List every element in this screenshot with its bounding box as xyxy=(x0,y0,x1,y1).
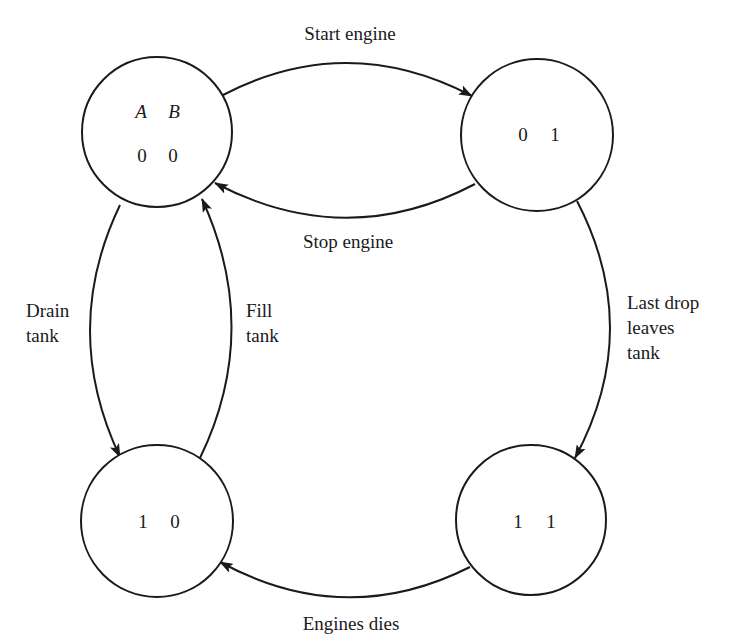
state-circle xyxy=(456,445,606,595)
state-10: 1 0 xyxy=(81,445,233,597)
state-b-value: 1 xyxy=(550,124,560,145)
label-drain-tank-line2: tank xyxy=(26,325,59,346)
edge-engines-dies xyxy=(220,562,470,597)
edge-fill-tank xyxy=(200,199,232,458)
edge-last-drop xyxy=(575,201,610,458)
edge-start-engine xyxy=(221,63,472,96)
state-01: 0 1 xyxy=(461,59,613,211)
label-fill-tank-line1: Fill xyxy=(246,300,272,321)
label-stop-engine: Stop engine xyxy=(303,231,393,252)
label-last-drop-line1: Last drop xyxy=(627,292,699,313)
state-circle xyxy=(461,59,613,211)
state-00: A B 0 0 xyxy=(82,57,232,207)
state-b-value: 1 xyxy=(546,511,556,532)
label-engines-dies: Engines dies xyxy=(303,613,400,634)
var-b-label: B xyxy=(168,101,180,122)
state-b-value: 0 xyxy=(168,145,178,166)
state-circle xyxy=(81,445,233,597)
state-diagram: A B 0 0 0 1 1 0 1 1 Start engine Stop en… xyxy=(0,0,740,642)
label-last-drop-line2: leaves xyxy=(627,317,674,338)
state-b-value: 0 xyxy=(170,511,180,532)
state-a-value: 0 xyxy=(137,145,147,166)
edge-stop-engine xyxy=(215,183,475,218)
state-a-value: 0 xyxy=(518,124,528,145)
label-fill-tank-line2: tank xyxy=(246,325,279,346)
state-a-value: 1 xyxy=(513,511,523,532)
state-circle xyxy=(82,57,232,207)
state-a-value: 1 xyxy=(138,511,148,532)
label-drain-tank-line1: Drain xyxy=(26,300,70,321)
label-start-engine: Start engine xyxy=(304,23,395,44)
edge-drain-tank xyxy=(90,205,120,457)
var-a-label: A xyxy=(133,101,147,122)
state-11: 1 1 xyxy=(456,445,606,595)
label-last-drop-line3: tank xyxy=(627,342,660,363)
